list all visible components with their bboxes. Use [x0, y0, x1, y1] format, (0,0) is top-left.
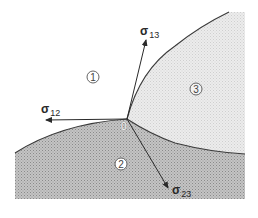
region-1-marker: 1: [87, 71, 99, 83]
region-2-label: 2: [118, 159, 124, 170]
region-2-marker: 2: [115, 158, 127, 170]
region-3-marker: 3: [190, 83, 202, 95]
vertex-label: 0: [121, 121, 127, 132]
triple-junction-diagram: σ12 σ13 σ23 0 1 2 3: [0, 0, 258, 218]
region-1-label: 1: [90, 72, 96, 83]
region-3-label: 3: [193, 84, 199, 95]
sigma-13-label: σ13: [140, 24, 159, 40]
sigma-12-label: σ12: [41, 102, 60, 118]
